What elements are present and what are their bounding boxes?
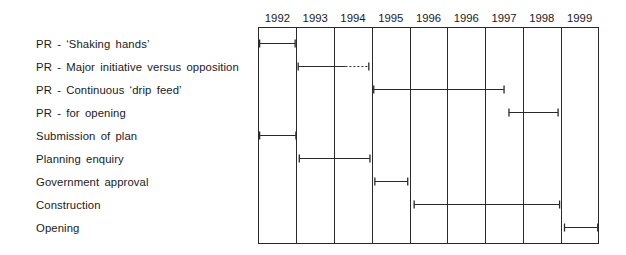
year-label: 1992 [265, 12, 290, 24]
timeline-bar [509, 109, 558, 117]
timeline-bar [565, 224, 598, 232]
grid-border [259, 28, 599, 244]
row-label: PR - for opening [36, 107, 126, 119]
year-label: 1998 [529, 12, 554, 24]
row-label: PR - ‘Shaking hands’ [36, 38, 150, 50]
row-label: Construction [36, 199, 101, 211]
timeline-bar [375, 178, 408, 186]
bars [260, 40, 598, 232]
timeline-bar [374, 86, 504, 94]
timeline-bar [260, 132, 296, 140]
row-label: PR - Major initiative versus opposition [36, 61, 239, 73]
timeline-bar [298, 63, 369, 71]
timeline-bar [414, 201, 559, 209]
grid [259, 28, 599, 244]
row-label: Government approval [36, 176, 149, 188]
year-label: 1996 [416, 12, 441, 24]
year-label: 1999 [567, 12, 592, 24]
year-label: 1995 [378, 12, 403, 24]
timeline-bar [260, 40, 296, 48]
row-label: PR - Continuous ‘drip feed’ [36, 84, 182, 96]
year-label: 1993 [303, 12, 328, 24]
year-label: 1996 [454, 12, 479, 24]
row-label: Planning enquiry [36, 153, 124, 165]
row-label: Opening [36, 222, 79, 234]
row-label: Submission of plan [36, 130, 137, 142]
year-label: 1994 [340, 12, 365, 24]
year-labels: 199219931994199519961996199719981999 [265, 12, 592, 24]
year-label: 1997 [491, 12, 516, 24]
